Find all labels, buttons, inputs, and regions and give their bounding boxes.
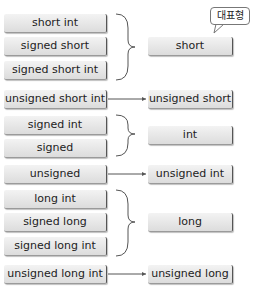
type-box-signed-long-int: signed long int bbox=[4, 237, 107, 256]
type-box-long-int: long int bbox=[4, 190, 107, 209]
arrow-icon bbox=[142, 272, 146, 276]
arrow-icon bbox=[142, 172, 146, 176]
callout-tail bbox=[214, 24, 224, 33]
type-box-signed-short: signed short bbox=[4, 37, 107, 56]
type-box-unsigned-int: unsigned int bbox=[148, 165, 233, 184]
type-box-short-int: short int bbox=[4, 14, 107, 33]
type-box-signed-long: signed long bbox=[4, 213, 107, 232]
type-box-unsigned-long: unsigned long bbox=[148, 265, 233, 284]
brace-icon bbox=[116, 14, 135, 80]
type-box-int: int bbox=[148, 126, 233, 145]
brace-icon bbox=[116, 190, 135, 256]
type-box-signed-short-int: signed short int bbox=[4, 61, 107, 80]
type-box-signed: signed bbox=[4, 139, 107, 158]
type-box-unsigned-short: unsigned short bbox=[148, 90, 233, 109]
callout-representative: 대표형 bbox=[210, 7, 250, 25]
type-box-short: short bbox=[148, 37, 233, 56]
arrow-icon bbox=[142, 97, 146, 101]
type-box-unsigned-long-int: unsigned long int bbox=[4, 265, 107, 284]
brace-icon bbox=[116, 115, 135, 156]
type-box-long: long bbox=[148, 213, 233, 232]
type-box-signed-int: signed int bbox=[4, 116, 107, 135]
type-box-unsigned-short-int: unsigned short int bbox=[4, 90, 107, 109]
type-box-unsigned: unsigned bbox=[4, 165, 107, 184]
